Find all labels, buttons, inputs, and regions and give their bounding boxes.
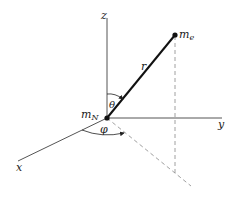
electron-label-main: m: [179, 28, 189, 41]
xy-projection-line: [107, 118, 191, 186]
r-vector-label: r: [141, 60, 147, 73]
r-vector: [107, 35, 175, 118]
x-axis: [18, 118, 107, 161]
spherical-coordinates-diagram: z y x r θ φ mN me: [0, 0, 239, 197]
z-axis-label: z: [100, 9, 107, 22]
electron-label: me: [179, 28, 194, 42]
phi-label: φ: [100, 123, 108, 136]
nucleus-point: [104, 115, 109, 120]
y-axis-label: y: [217, 118, 225, 131]
nucleus-label: mN: [81, 108, 99, 122]
x-axis-label: x: [16, 161, 23, 174]
nucleus-label-subscript: N: [90, 113, 99, 122]
nucleus-label-main: m: [81, 108, 91, 121]
electron-point: [172, 32, 177, 37]
electron-label-subscript: e: [189, 33, 194, 42]
theta-label: θ: [109, 99, 115, 110]
